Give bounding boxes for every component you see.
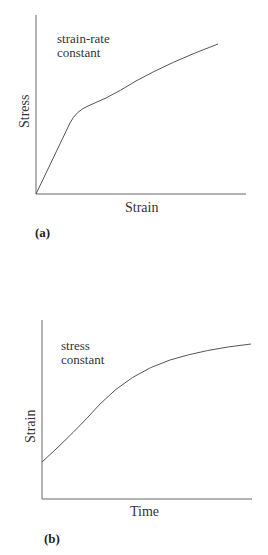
chart-b-y-axis-label: Strain <box>23 410 39 443</box>
chart-a-annotation-line2: constant <box>57 46 100 60</box>
chart-a-y-axis-label: Stress <box>17 95 33 128</box>
chart-b-annotation-line2: constant <box>61 353 104 367</box>
chart-b-annotation-line1: stress <box>61 339 90 353</box>
chart-a-x-axis-label: Strain <box>125 200 158 216</box>
chart-a-panel-label: (a) <box>35 225 50 241</box>
chart-a-annotation-line1: strain-rate <box>57 32 110 46</box>
chart-a-curve <box>36 44 218 194</box>
chart-b-panel-label: (b) <box>44 531 60 547</box>
figure-canvas <box>0 0 268 555</box>
chart-b-x-axis-label: Time <box>130 504 159 520</box>
